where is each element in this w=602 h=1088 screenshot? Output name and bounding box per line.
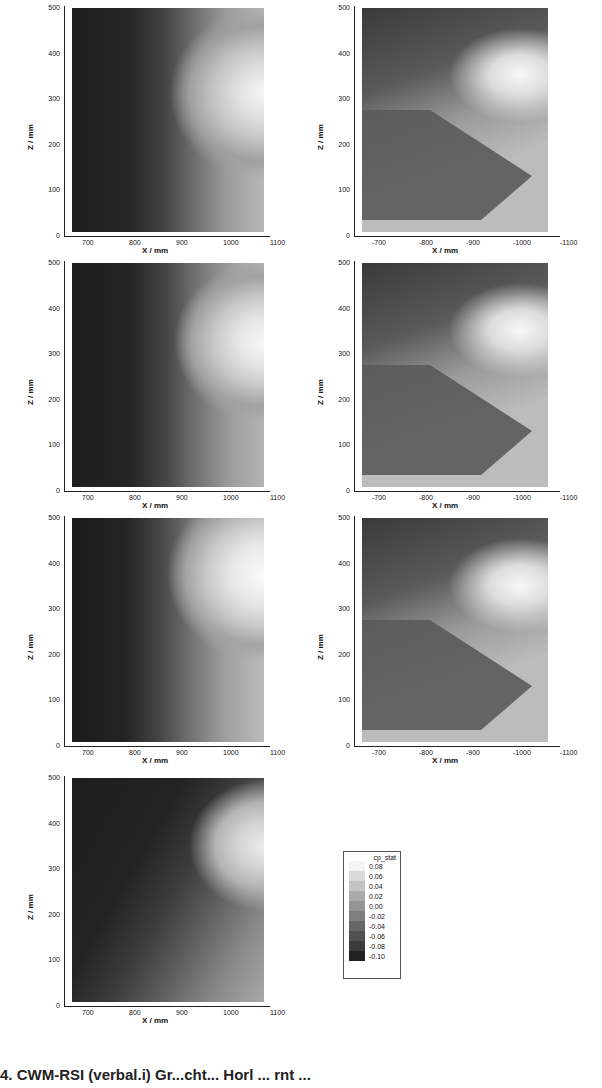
x-axis-label: X / mm (432, 501, 458, 510)
legend-value: 0.02 (369, 893, 383, 900)
y-axis-label: Z / mm (26, 379, 35, 405)
y-axis-label: Z / mm (316, 124, 325, 150)
x-tick-label: 700 (82, 1009, 94, 1016)
x-axis-label: X / mm (142, 1016, 168, 1025)
y-tick-label: 400 (326, 50, 350, 57)
x-tick-label: 1000 (223, 1009, 239, 1016)
y-tick-label: 0 (326, 487, 350, 494)
contour-plot-area (72, 263, 264, 487)
x-axis-label: X / mm (432, 246, 458, 255)
x-tick-label: -1000 (513, 239, 531, 246)
x-tick-label: -1000 (513, 749, 531, 756)
legend-value: 0.06 (369, 873, 383, 880)
y-axis-label: Z / mm (26, 894, 35, 920)
y-tick-label: 200 (36, 651, 60, 658)
x-axis (354, 236, 560, 237)
legend-entry: -0.10 (344, 951, 400, 961)
y-tick-label: 300 (36, 95, 60, 102)
legend-value: 0.08 (369, 863, 383, 870)
contour-plot-area (72, 8, 264, 232)
legend-value: 0.04 (369, 883, 383, 890)
y-axis (354, 6, 355, 236)
y-tick-label: 400 (36, 560, 60, 567)
y-tick-label: 200 (326, 141, 350, 148)
figure-caption: 4. CWM-RSI (verbal.i) Gr...cht... Horl .… (0, 1066, 602, 1088)
x-tick-label: -1100 (560, 749, 577, 756)
y-tick-label: 100 (326, 186, 350, 193)
legend-entry: -0.06 (344, 931, 400, 941)
legend-swatch (349, 921, 365, 931)
y-tick-label: 100 (326, 696, 350, 703)
legend-value: -0.04 (369, 923, 385, 930)
contour-panel-right-3: 0100200300400500-700-800-900-1000-1100Z … (300, 510, 550, 770)
x-axis-label: X / mm (142, 501, 168, 510)
y-tick-label: 500 (36, 4, 60, 11)
x-tick-label: 1100 (270, 1009, 285, 1016)
y-tick-label: 300 (36, 350, 60, 357)
y-axis (354, 261, 355, 491)
x-tick-label: -1100 (560, 239, 577, 246)
y-tick-label: 100 (36, 956, 60, 963)
legend-entry: -0.02 (344, 911, 400, 921)
legend-entry: 0.04 (344, 881, 400, 891)
y-axis (354, 516, 355, 746)
contour-panel-right-2: 0100200300400500-700-800-900-1000-1100Z … (300, 255, 550, 515)
y-tick-label: 500 (36, 774, 60, 781)
y-tick-label: 200 (326, 396, 350, 403)
x-tick-label: -900 (466, 749, 480, 756)
x-tick-label: 1000 (223, 749, 239, 756)
y-axis (64, 6, 65, 236)
y-tick-label: 300 (326, 605, 350, 612)
y-axis (64, 516, 65, 746)
y-axis (64, 261, 65, 491)
x-tick-label: -800 (419, 239, 433, 246)
y-tick-label: 100 (36, 441, 60, 448)
y-tick-label: 100 (36, 696, 60, 703)
y-axis (64, 776, 65, 1006)
x-axis (64, 236, 270, 237)
y-tick-label: 400 (326, 560, 350, 567)
y-tick-label: 500 (36, 259, 60, 266)
y-tick-label: 100 (326, 441, 350, 448)
contour-plot-area (72, 778, 264, 1002)
x-tick-label: -1000 (513, 494, 531, 501)
y-axis-label: Z / mm (26, 124, 35, 150)
legend-entry: 0.08 (344, 861, 400, 871)
legend-swatch (349, 891, 365, 901)
x-tick-label: 800 (129, 494, 141, 501)
x-tick-label: 800 (129, 1009, 141, 1016)
contour-panel-left-4: 010020030040050070080090010001100Z / mmX… (0, 770, 250, 1030)
x-tick-label: 900 (176, 1009, 188, 1016)
x-axis (354, 746, 560, 747)
x-tick-label: -800 (419, 494, 433, 501)
x-tick-label: 1000 (223, 239, 239, 246)
x-axis-label: X / mm (432, 756, 458, 765)
x-tick-label: 700 (82, 749, 94, 756)
y-tick-label: 0 (36, 232, 60, 239)
y-tick-label: 100 (36, 186, 60, 193)
x-axis (64, 746, 270, 747)
legend-value: 0.00 (369, 903, 383, 910)
legend-swatch (349, 911, 365, 921)
y-tick-label: 300 (36, 865, 60, 872)
x-tick-label: 800 (129, 239, 141, 246)
contour-panel-left-2: 010020030040050070080090010001100Z / mmX… (0, 255, 250, 515)
legend-swatch (349, 931, 365, 941)
y-tick-label: 500 (36, 514, 60, 521)
legend-swatch (349, 871, 365, 881)
x-tick-label: 700 (82, 494, 94, 501)
x-tick-label: 900 (176, 494, 188, 501)
legend-entry: 0.00 (344, 901, 400, 911)
y-tick-label: 500 (326, 514, 350, 521)
y-tick-label: 200 (36, 396, 60, 403)
y-tick-label: 200 (36, 911, 60, 918)
legend-entry: 0.02 (344, 891, 400, 901)
x-tick-label: -900 (466, 494, 480, 501)
legend-entry: -0.04 (344, 921, 400, 931)
legend-value: -0.06 (369, 933, 385, 940)
x-tick-label: -700 (372, 239, 386, 246)
contour-plot-area (72, 518, 264, 742)
x-axis (354, 491, 560, 492)
y-axis-label: Z / mm (316, 379, 325, 405)
y-tick-label: 0 (326, 232, 350, 239)
